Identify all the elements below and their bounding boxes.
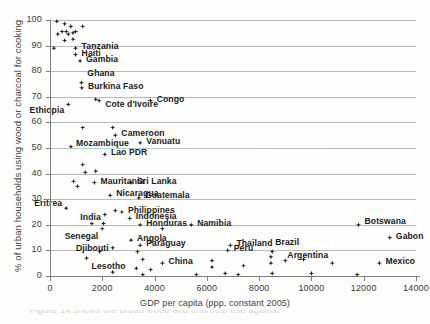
y-tick-mark-10 [46,250,50,251]
y-tick-mark-40 [46,174,50,175]
point-label-senegal: Senegal [65,231,99,241]
x-tick-mark-14000 [416,277,417,281]
x-tick-label-2000: 2000 [72,283,132,293]
point-label-burkina-faso: Burkina Faso [88,81,144,91]
gridline-y-60 [50,122,416,123]
x-tick-mark-4000 [155,277,156,281]
plot-area: TanzaniaHaitiGambiaGhanaBurkina FasoCote… [50,20,416,276]
x-tick-label-0: 0 [20,283,80,293]
y-tick-label-20: 20 [8,219,42,229]
x-axis-title: GDP per capita (ppp, constant 2005) [0,298,430,308]
x-tick-mark-12000 [364,277,365,281]
gridline-y-100 [50,20,416,21]
y-tick-label-50: 50 [8,142,42,152]
gridline-y-40 [50,174,416,175]
gridline-y-20 [50,225,416,226]
y-tick-mark-60 [46,122,50,123]
point-label-sri-lanka: Sri Lanka [137,176,177,186]
point-label-argentina: Argentina [287,250,328,260]
y-tick-mark-70 [46,97,50,98]
gridline-y-50 [50,148,416,149]
point-label-gambia: Gambia [86,54,118,64]
caption-text: Figure 14 shows the urban wood and charc… [30,310,280,315]
y-tick-mark-80 [46,71,50,72]
y-tick-label-30: 30 [8,193,42,203]
y-tick-mark-20 [46,225,50,226]
point-label-vanuatu: Vanuatu [146,136,180,146]
point-label-ethiopia: Ethiopia [30,105,65,115]
caption-strip: Figure 14 shows the urban wood and charc… [0,310,430,324]
point-label-mexico: Mexico [385,256,415,266]
point-label-djibouti: Djibouti [76,243,109,253]
y-tick-label-100: 100 [8,14,42,24]
x-tick-mark-0 [50,277,51,281]
x-tick-label-6000: 6000 [177,283,237,293]
y-tick-label-40: 40 [8,168,42,178]
y-tick-label-70: 70 [8,91,42,101]
point-label-paraguay: Paraguay [146,238,186,248]
point-label-brazil: Brazil [275,237,299,247]
x-tick-mark-6000 [207,277,208,281]
y-tick-mark-100 [46,20,50,21]
point-label-ghana: Ghana [87,68,114,78]
point-label-china: China [168,256,192,266]
point-label-lesotho: Lesotho [92,261,126,271]
x-tick-label-10000: 10000 [281,283,341,293]
x-tick-mark-10000 [311,277,312,281]
scatter-chart-figure: % of urban households using wood or char… [0,0,430,324]
point-label-congo: Congo [157,94,185,104]
point-label-peru: Peru [234,243,254,253]
point-label-guatemala: Guatemala [145,190,190,200]
point-label-mozambique: Mozambique [76,138,129,148]
y-tick-label-60: 60 [8,116,42,126]
y-tick-label-90: 90 [8,40,42,50]
y-tick-label-0: 0 [8,270,42,280]
y-tick-label-80: 80 [8,65,42,75]
x-tick-mark-2000 [102,277,103,281]
x-tick-mark-8000 [259,277,260,281]
point-label-botswana: Botswana [364,216,405,226]
y-tick-mark-90 [46,46,50,47]
y-axis-line [50,20,51,277]
y-tick-label-10: 10 [8,244,42,254]
point-label-india: India [80,212,101,222]
point-label-gabon: Gabon [396,231,424,241]
point-label-namibia: Namibia [197,218,231,228]
x-tick-label-4000: 4000 [125,283,185,293]
x-tick-label-8000: 8000 [229,283,289,293]
point-label-honduras: Honduras [146,218,187,228]
x-tick-label-14000: 14000 [386,283,430,293]
x-tick-label-12000: 12000 [334,283,394,293]
gridline-y-30 [50,199,416,200]
y-tick-mark-30 [46,199,50,200]
point-label-lao-pdr: Lao PDR [111,147,148,157]
y-tick-mark-50 [46,148,50,149]
